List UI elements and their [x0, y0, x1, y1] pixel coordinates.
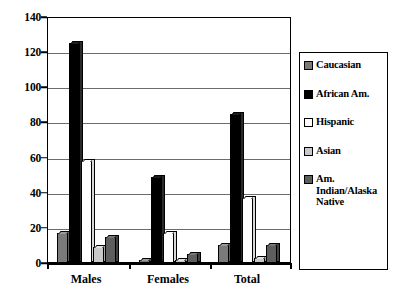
x-category-label-females: Females	[147, 272, 189, 287]
bar-group-total	[218, 114, 284, 263]
x-tick-mark	[129, 263, 131, 269]
bar	[93, 247, 104, 263]
bar	[218, 245, 229, 263]
x-category-label-males: Males	[71, 272, 102, 287]
x-axis: MalesFemalesTotal	[47, 263, 291, 296]
legend-swatch-icon	[304, 90, 313, 99]
legend-swatch-icon	[304, 175, 313, 184]
legend-item[interactable]: Caucasian	[304, 59, 387, 71]
bar-side-face	[253, 196, 256, 262]
legend-item[interactable]: Asian	[304, 145, 387, 157]
bar	[151, 177, 162, 263]
bar-side-face	[116, 235, 119, 262]
bar-side-face	[277, 243, 280, 262]
x-tick-mark	[210, 263, 212, 269]
chart-legend: CaucasianAfrican Am.HispanicAsianAm. Ind…	[299, 52, 388, 270]
legend-label: African Am.	[316, 88, 369, 100]
bar-side-face	[174, 231, 177, 262]
y-tick-label: 20	[30, 222, 41, 234]
legend-swatch-icon	[304, 118, 313, 127]
legend-swatch-icon	[304, 61, 313, 70]
legend-label: Am. Indian/Alaska Native	[316, 173, 387, 208]
bar	[57, 233, 68, 263]
bar	[187, 254, 198, 263]
y-tick-label: 60	[30, 152, 41, 164]
x-tick-mark	[47, 263, 49, 269]
bar	[230, 114, 241, 263]
legend-label: Caucasian	[316, 59, 361, 71]
bar	[81, 161, 92, 263]
y-tick-label: 40	[30, 187, 41, 199]
y-tick-label: 80	[30, 116, 41, 128]
legend-label: Hispanic	[316, 116, 354, 128]
legend-item[interactable]: Am. Indian/Alaska Native	[304, 173, 387, 208]
bar	[105, 237, 116, 263]
bar	[242, 198, 253, 263]
bar-group-females	[139, 177, 205, 263]
bar-side-face	[198, 252, 201, 262]
legend-item[interactable]: Hispanic	[304, 116, 387, 128]
y-tick-label: 120	[24, 46, 41, 58]
bar	[163, 233, 174, 263]
bar	[69, 43, 80, 263]
y-axis: 020406080100120140	[0, 0, 47, 296]
legend-swatch-icon	[304, 147, 313, 156]
x-tick-mark	[290, 263, 292, 269]
bar	[266, 245, 277, 263]
y-tick-label: 100	[24, 81, 41, 93]
bar-chart: 020406080100120140 MalesFemalesTotal Cau…	[0, 0, 400, 296]
y-tick-label: 140	[24, 11, 41, 23]
x-category-label-total: Total	[234, 272, 260, 287]
legend-label: Asian	[316, 145, 341, 157]
bars-layer	[47, 17, 291, 263]
legend-item[interactable]: African Am.	[304, 88, 387, 100]
x-axis-line	[47, 263, 291, 265]
bar-group-males	[57, 43, 123, 263]
